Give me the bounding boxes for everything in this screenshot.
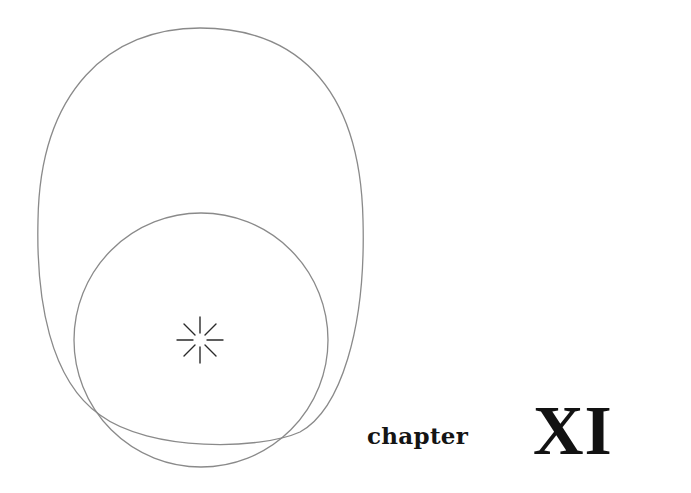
chapter-number: XI <box>533 396 613 466</box>
chapter-label: chapter <box>367 424 468 447</box>
chapter-opener-page: chapter XI <box>0 0 691 493</box>
burst-icon <box>177 317 223 363</box>
outer-oval-shape <box>38 28 363 445</box>
inner-circle-shape <box>74 213 328 467</box>
